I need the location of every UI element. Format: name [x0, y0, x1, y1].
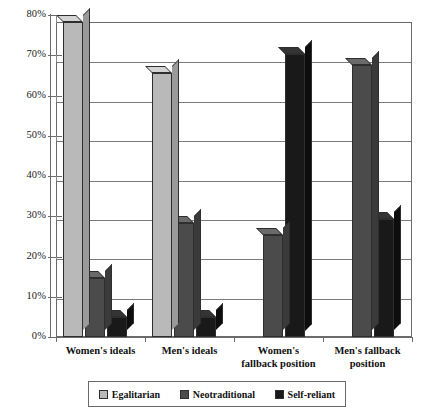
legend-swatch-icon: [275, 390, 284, 399]
y-tick-connector: [56, 96, 57, 102]
y-tick-connector: [56, 216, 57, 220]
bar-side: [83, 8, 90, 330]
bar: [263, 235, 283, 337]
bar-side: [305, 40, 312, 331]
bar: [152, 73, 172, 337]
legend-item[interactable]: Neotraditional: [180, 389, 255, 400]
bar-side: [194, 209, 201, 330]
y-tick-label: 70%: [0, 48, 46, 59]
x-axis-line: [50, 337, 412, 338]
y-tick-connector: [56, 297, 57, 299]
y-tick-label: 0%: [0, 330, 46, 341]
x-category-label: Men's fallback position: [315, 344, 420, 370]
bar-side: [394, 205, 401, 330]
y-tick-label: 80%: [0, 8, 46, 19]
x-tick-mark: [412, 337, 413, 342]
y-tick-label: 20%: [0, 250, 46, 261]
y-tick-mark: [48, 297, 62, 298]
legend: EgalitarianNeotraditionalSelf-reliant: [88, 381, 346, 407]
y-tick-mark: [48, 176, 62, 177]
y-tick-label: 10%: [0, 290, 46, 301]
y-tick-mark: [48, 136, 62, 137]
y-tick-label: 30%: [0, 209, 46, 220]
bar-side: [283, 221, 290, 330]
legend-item[interactable]: Self-reliant: [275, 389, 336, 400]
bar-side: [105, 264, 112, 330]
legend-label: Self-reliant: [288, 389, 336, 400]
y-tick-mark: [48, 257, 62, 258]
x-tick-mark: [56, 337, 57, 342]
y-tick-connector: [56, 176, 57, 181]
y-tick-mark: [48, 216, 62, 217]
y-tick-label: 40%: [0, 169, 46, 180]
x-tick-mark: [234, 337, 235, 342]
bar: [63, 22, 83, 337]
bar-side: [372, 51, 379, 330]
x-tick-mark: [323, 337, 324, 342]
x-tick-mark: [145, 337, 146, 342]
y-tick-label: 50%: [0, 129, 46, 140]
y-tick-mark: [48, 96, 62, 97]
bar-face: [263, 235, 283, 337]
legend-swatch-icon: [99, 390, 108, 399]
legend-label: Egalitarian: [112, 389, 160, 400]
bar-side: [172, 59, 179, 330]
y-tick-connector: [56, 55, 57, 62]
y-tick-mark: [48, 55, 62, 56]
bar: [352, 65, 372, 337]
legend-label: Neotraditional: [193, 389, 255, 400]
legend-swatch-icon: [180, 390, 189, 399]
y-tick-connector: [56, 136, 57, 141]
bar-top: [56, 15, 83, 22]
y-tick-connector: [56, 257, 57, 260]
y-tick-label: 60%: [0, 89, 46, 100]
bar-face: [63, 22, 83, 337]
y-tick-mark: [48, 337, 62, 338]
bar-chart: 0%10%20%30%40%50%60%70%80% Women's ideal…: [0, 0, 432, 420]
bar-face: [152, 73, 172, 337]
legend-item[interactable]: Egalitarian: [99, 389, 160, 400]
bar-face: [352, 65, 372, 337]
